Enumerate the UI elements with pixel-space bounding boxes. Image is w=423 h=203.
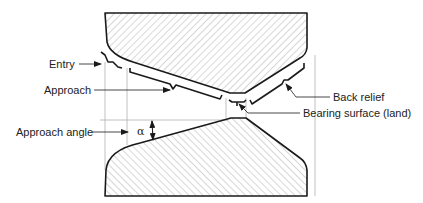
label-back-relief: Back relief — [333, 91, 385, 103]
label-approach: Approach — [44, 84, 91, 96]
label-alpha: α — [137, 125, 145, 138]
label-bearing-surface: Bearing surface (land) — [303, 107, 411, 119]
top-die — [105, 13, 307, 93]
label-approach-angle: Approach angle — [16, 126, 93, 138]
bottom-die — [105, 118, 307, 196]
label-entry: Entry — [49, 58, 75, 70]
die-diagram: Entry Approach Approach angle α Back rel… — [0, 0, 423, 203]
